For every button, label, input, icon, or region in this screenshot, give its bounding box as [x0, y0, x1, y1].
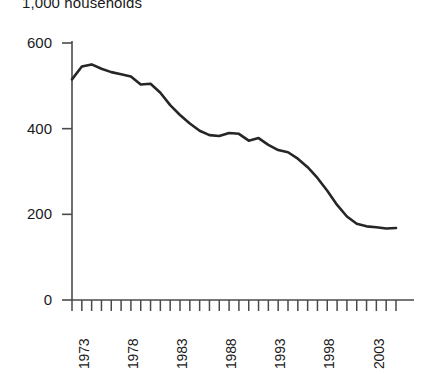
x-axis-tick-label: 1993 — [273, 339, 287, 369]
x-axis-tick-label: 1988 — [224, 339, 238, 369]
y-axis-tick-label: 0 — [0, 292, 52, 307]
y-axis-ticks — [62, 43, 72, 300]
x-axis-tick-label: 1983 — [175, 339, 189, 369]
data-series-group — [72, 64, 396, 228]
data-line-series-1 — [72, 64, 396, 228]
axes — [72, 41, 414, 300]
x-axis-tick-label: 1978 — [126, 339, 140, 369]
y-axis-tick-label: 400 — [0, 121, 52, 136]
chart-figure: 1,000 households 0200400600 197319781983… — [0, 0, 421, 374]
line-chart-plot — [0, 0, 421, 374]
x-axis-tick-label: 2003 — [372, 339, 386, 369]
x-axis-tick-label: 1973 — [77, 339, 91, 369]
y-axis-tick-label: 600 — [0, 35, 52, 50]
x-axis-tick-label: 1998 — [322, 339, 336, 369]
y-axis-tick-label: 200 — [0, 206, 52, 221]
x-axis-ticks — [72, 300, 396, 311]
